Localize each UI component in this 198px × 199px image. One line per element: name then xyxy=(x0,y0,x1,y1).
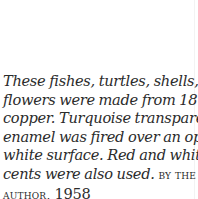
caption-line-4: enamel was fired over an opaque xyxy=(3,128,195,147)
figure-caption: These fishes, turtles, shells, and flowe… xyxy=(3,72,195,199)
caption-text-end: cents were also used. xyxy=(3,165,155,182)
caption-year: 1958 xyxy=(54,185,90,199)
caption-line-3: copper. Turquoise transparent xyxy=(3,109,195,128)
author-credit-prefix: BY THE xyxy=(158,167,196,182)
caption-line-1: These fishes, turtles, shells, and xyxy=(3,72,195,91)
caption-line-7: AUTHOR, 1958 xyxy=(3,185,195,199)
caption-line-2: flowers were made from 18 gauge xyxy=(3,91,195,110)
caption-line-5: white surface. Red and white ac- xyxy=(3,146,195,165)
author-credit: AUTHOR, xyxy=(3,187,51,199)
caption-line-6: cents were also used. BY THE xyxy=(3,165,195,185)
